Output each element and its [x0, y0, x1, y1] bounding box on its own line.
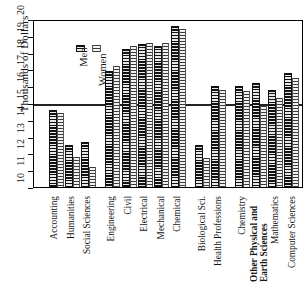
x-label-engineering: Engineering	[104, 190, 120, 296]
y-tick-15: 15	[14, 89, 28, 99]
y-axis-tick-labels: 1011121314151617181920	[14, 10, 28, 196]
bar-men	[235, 86, 243, 187]
x-label-electrical: Electrical	[137, 190, 153, 296]
legend-label-men: Men	[78, 48, 89, 94]
y-tick-14: 14	[14, 106, 28, 116]
x-label-computer-sciences: Computer Sciences	[284, 190, 300, 296]
x-label-text: Mechanical	[157, 196, 167, 239]
x-label-social-sciences: Social Sciences	[80, 190, 96, 296]
y-tick-11: 11	[14, 156, 28, 166]
bar-group	[284, 21, 300, 187]
bar-group	[267, 21, 283, 187]
bar-women	[179, 29, 186, 187]
x-label-text: Accounting	[50, 196, 60, 239]
bar-group	[48, 21, 64, 187]
bar-women	[57, 113, 64, 187]
bar-men	[284, 73, 292, 187]
bar-women	[292, 78, 299, 187]
bar-men	[195, 145, 203, 187]
bar-group	[154, 21, 170, 187]
y-tickmark-10	[28, 188, 33, 189]
x-label-text: Health Professions	[214, 196, 224, 266]
y-tick-19: 19	[14, 22, 28, 32]
x-label-health-professions: Health Professions	[211, 190, 227, 296]
bar-men	[65, 145, 73, 187]
bar-women	[162, 43, 169, 187]
legend-entry-women: Women	[92, 45, 101, 54]
plot-area: Men Women	[33, 20, 303, 188]
bar-men	[171, 26, 179, 187]
bar-women	[130, 46, 137, 187]
x-label-text: Biological Sci.	[198, 196, 208, 251]
bar-women	[260, 106, 267, 187]
bar-women	[243, 91, 250, 187]
legend-label-women: Women	[97, 54, 108, 100]
x-label-text: Social Sciences	[83, 196, 93, 254]
bar-women	[276, 98, 283, 187]
bar-group	[211, 21, 227, 187]
bar-men	[211, 86, 219, 187]
x-label-biological-sci: Biological Sci.	[194, 190, 210, 296]
x-label-humanities: Humanities	[63, 190, 79, 296]
x-label-text: Mathematics	[271, 196, 281, 244]
bar-women	[146, 43, 153, 187]
bar-men	[268, 90, 276, 187]
bar-men	[49, 110, 57, 187]
x-label-text: Electrical	[141, 196, 151, 232]
x-axis-labels: AccountingHumanitiesSocial SciencesEngin…	[33, 190, 303, 296]
bar-women	[89, 167, 96, 187]
y-tick-12: 12	[14, 139, 28, 149]
x-label-text: Other Physical and Earth Sciences	[250, 196, 269, 282]
x-label-text: Engineering	[108, 196, 118, 241]
y-tick-17: 17	[14, 55, 28, 65]
bar-group	[251, 21, 267, 187]
chart-root: Thousands of Dollars 1011121314151617181…	[0, 0, 307, 298]
legend-swatch-women-icon	[92, 45, 101, 52]
bar-women	[203, 158, 210, 187]
y-tick-13: 13	[14, 123, 28, 133]
x-label-text: Chemistry	[239, 196, 249, 235]
bar-group	[137, 21, 153, 187]
x-label-text: Humanities	[67, 196, 77, 239]
legend: Men Women	[74, 45, 124, 111]
bar-men	[154, 46, 162, 187]
y-tick-20: 20	[14, 5, 28, 15]
bar-men	[138, 44, 146, 187]
bar-women	[219, 90, 226, 187]
bar-women	[73, 157, 80, 187]
x-label-text: Chemical	[173, 196, 183, 232]
y-tick-18: 18	[14, 39, 28, 49]
legend-entry-men: Men	[76, 45, 85, 54]
bar-group	[194, 21, 210, 187]
bar-men	[252, 83, 260, 187]
x-label-text: Civil	[124, 196, 134, 215]
x-label-other-physical-and-earth-sciences: Other Physical and Earth Sciences	[252, 190, 268, 296]
x-label-mathematics: Mathematics	[268, 190, 284, 296]
bar-group	[170, 21, 186, 187]
x-label-text: Computer Sciences	[288, 196, 298, 268]
bar-men	[81, 142, 89, 187]
x-label-accounting: Accounting	[47, 190, 63, 296]
x-label-civil: Civil	[121, 190, 137, 296]
bar-group	[235, 21, 251, 187]
x-label-chemical: Chemical	[170, 190, 186, 296]
y-tick-10: 10	[14, 173, 28, 183]
y-tick-16: 16	[14, 72, 28, 82]
x-label-mechanical: Mechanical	[154, 190, 170, 296]
